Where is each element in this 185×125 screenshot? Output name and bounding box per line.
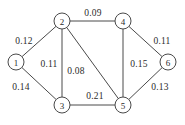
edge-weight-label-2-5: 0.08 (67, 66, 84, 76)
edge-weight-label-5-6: 0.13 (151, 82, 168, 92)
graph-node-4: 4 (115, 13, 131, 29)
edge-weight-label-3-5: 0.21 (86, 91, 103, 101)
node-label-2: 2 (60, 17, 65, 27)
node-label-6: 6 (166, 58, 171, 68)
node-label-5: 5 (121, 101, 126, 111)
edge-weight-label-4-6: 0.11 (153, 36, 170, 46)
node-label-3: 3 (60, 101, 65, 111)
graph-edge-2-5 (67, 27, 119, 98)
edge-weight-label-4-5: 0.15 (130, 59, 147, 69)
graph-node-3: 3 (54, 97, 70, 113)
node-label-4: 4 (121, 17, 126, 27)
graph-node-1: 1 (8, 54, 24, 70)
edge-weight-label-2-4: 0.09 (84, 8, 101, 18)
node-label-1: 1 (14, 58, 19, 68)
graph-canvas: 123456 0.120.140.110.090.080.210.150.110… (0, 0, 185, 125)
edge-weight-label-1-2: 0.12 (15, 36, 32, 46)
graph-node-6: 6 (160, 54, 176, 70)
edge-weight-label-2-3: 0.11 (40, 59, 57, 69)
weighted-graph-diagram: 123456 0.120.140.110.090.080.210.150.110… (0, 0, 185, 125)
graph-node-5: 5 (115, 97, 131, 113)
graph-node-2: 2 (54, 13, 70, 29)
edge-weight-label-1-3: 0.14 (12, 82, 29, 92)
edge-label-layer: 0.120.140.110.090.080.210.150.110.13 (12, 8, 170, 101)
